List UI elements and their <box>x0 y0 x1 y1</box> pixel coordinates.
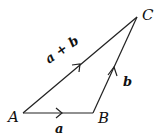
point-label-b: B <box>97 109 109 127</box>
vector-label-a: a <box>55 121 63 136</box>
vector-label-b: b <box>123 74 132 89</box>
point-label-a: A <box>6 108 19 126</box>
point-label-c: C <box>142 6 154 24</box>
vector-label-a-plus-b: a + b <box>42 33 81 67</box>
vector-b-line <box>93 17 137 113</box>
vector-triangle-diagram: A B C a b a + b <box>0 0 158 136</box>
